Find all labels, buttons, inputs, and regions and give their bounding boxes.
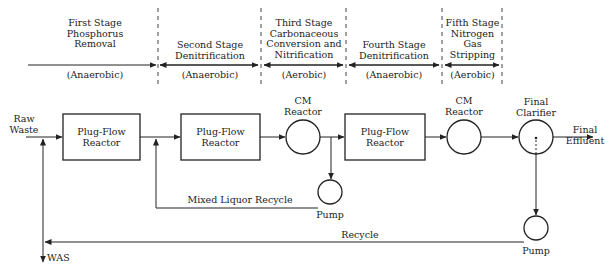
stage-1-condition: (Anaerobic) xyxy=(40,70,150,81)
was-label: WAS xyxy=(47,253,71,264)
stage-4-condition: (Anaerobic) xyxy=(347,70,441,81)
plug-flow-reactor-2-label: Plug-FlowReactor xyxy=(181,127,260,148)
raw-waste-label: RawWaste xyxy=(2,114,46,135)
mixed-liquor-recycle-label: Mixed Liquor Recycle xyxy=(180,195,300,206)
plug-flow-reactor-1-label: Plug-FlowReactor xyxy=(63,127,140,148)
stage-5-title: Fifth StageNitrogenGasStripping xyxy=(443,18,502,60)
final-effluent-label: FinalEffluent xyxy=(555,125,615,146)
cm-reactor-1 xyxy=(286,120,320,154)
pump-1 xyxy=(318,180,342,204)
stage-3-condition: (Aerobic) xyxy=(262,70,346,81)
pump-1-label: Pump xyxy=(305,210,355,221)
stage-1-title: First StagePhosphorusRemoval xyxy=(40,18,150,50)
stage-2-condition: (Anaerobic) xyxy=(160,70,260,81)
final-clarifier-label: FinalClarifier xyxy=(506,97,566,118)
stage-2-title: Second StageDenitrification xyxy=(160,40,260,61)
flow-lines xyxy=(26,137,593,262)
cm-reactor-1-label: CMReactor xyxy=(273,96,333,117)
cm-reactor-2-label: CMReactor xyxy=(434,96,494,117)
stage-3-title: Third StageCarbonaceousConversion andNit… xyxy=(262,18,346,60)
pump-2 xyxy=(524,216,548,240)
pump-2-label: Pump xyxy=(511,246,561,257)
stage-5-condition: (Aerobic) xyxy=(443,70,502,81)
stage-4-title: Fourth StageDenitrification xyxy=(347,40,441,61)
recycle-label: Recycle xyxy=(330,230,390,241)
plug-flow-reactor-3-label: Plug-FlowReactor xyxy=(345,127,425,148)
cm-reactor-2 xyxy=(447,120,481,154)
